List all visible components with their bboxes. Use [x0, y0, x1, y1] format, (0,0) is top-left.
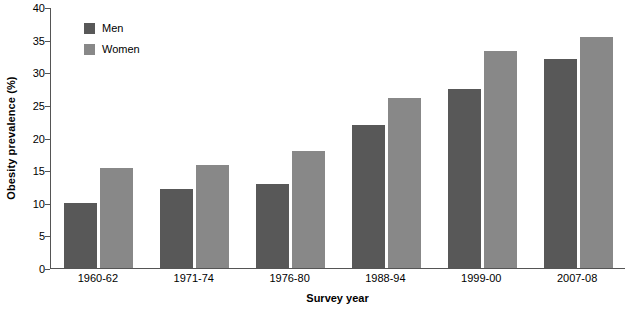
y-axis-tick [45, 8, 50, 9]
bar-women-1960-62 [100, 168, 133, 268]
y-axis-tick-label: 40 [33, 3, 45, 14]
x-axis-tick-label: 2007-08 [557, 272, 597, 285]
x-axis-tick-label: 1988-94 [365, 272, 405, 285]
legend-label: Men [102, 23, 123, 34]
bar-men-1988-94 [352, 125, 385, 268]
legend-entry-women: Women [84, 43, 174, 55]
bar-men-1976-80 [256, 184, 289, 268]
x-axis-tick-label: 1999-00 [461, 272, 501, 285]
x-axis-line [50, 268, 625, 269]
bar-women-1999-00 [484, 51, 517, 268]
y-axis-tick-label: 25 [33, 100, 45, 111]
legend-entry-men: Men [84, 22, 174, 34]
legend-swatch-men [84, 23, 95, 34]
bar-women-1976-80 [292, 151, 325, 268]
y-axis-tick [45, 269, 50, 270]
y-axis-tick [45, 41, 50, 42]
y-axis-tick-label: 35 [33, 35, 45, 46]
bar-chart: Obesity prevalence (%) 0510152025303540 … [0, 0, 632, 314]
x-axis-tick-label: 1976-80 [269, 272, 309, 285]
legend: MenWomen [84, 22, 174, 64]
legend-swatch-women [84, 44, 95, 55]
y-axis-tick [45, 171, 50, 172]
legend-label: Women [102, 44, 140, 55]
x-axis-tick-label: 1971-74 [174, 272, 214, 285]
bar-men-1999-00 [448, 89, 481, 268]
bar-men-1971-74 [160, 189, 193, 268]
y-axis-tick-label: 15 [33, 166, 45, 177]
y-axis-tick [45, 139, 50, 140]
y-axis-tick-label: 30 [33, 68, 45, 79]
y-axis-title: Obesity prevalence (%) [0, 0, 22, 276]
x-axis-tick-labels: 1960-621971-741976-801988-941999-002007-… [50, 272, 625, 290]
y-axis-tick [45, 106, 50, 107]
x-axis-title: Survey year [50, 292, 625, 304]
y-axis-tick [45, 73, 50, 74]
x-axis-tick-label: 1960-62 [78, 272, 118, 285]
y-axis-tick-label: 20 [33, 133, 45, 144]
bar-men-2007-08 [544, 59, 577, 268]
y-axis-title-text: Obesity prevalence (%) [5, 76, 17, 199]
bar-women-2007-08 [580, 37, 613, 268]
y-axis-tick [45, 236, 50, 237]
bar-women-1971-74 [196, 165, 229, 268]
y-axis-tick-label: 10 [33, 198, 45, 209]
bar-men-1960-62 [64, 203, 97, 268]
y-axis-tick [45, 204, 50, 205]
bar-women-1988-94 [388, 98, 421, 268]
